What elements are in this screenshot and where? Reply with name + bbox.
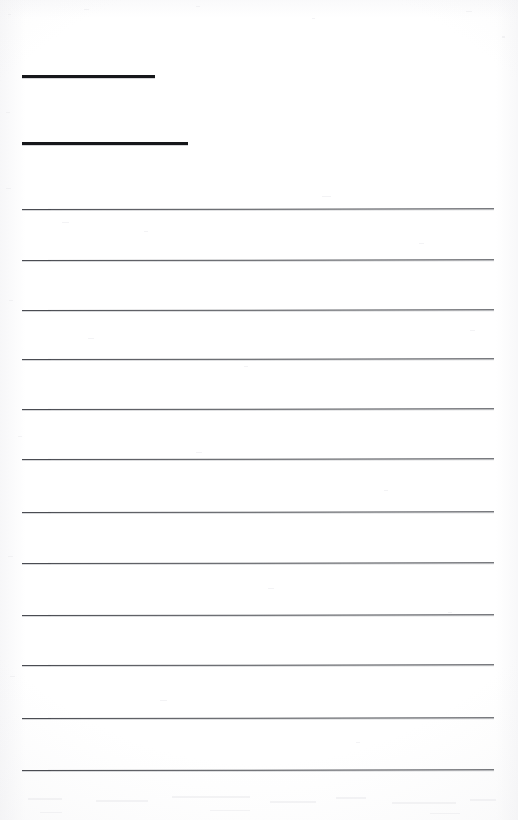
ruled-line	[22, 259, 494, 261]
ruled-line	[22, 358, 494, 360]
header-rule-primary	[22, 75, 155, 78]
scanned-page	[0, 0, 518, 820]
ruled-line	[22, 458, 494, 460]
ruled-line	[22, 408, 494, 410]
ruled-line	[22, 511, 494, 513]
ruled-line	[22, 208, 494, 210]
ruled-line	[22, 717, 494, 719]
ruled-line	[22, 664, 494, 666]
scan-noise-overlay	[0, 0, 518, 820]
ruled-line	[22, 562, 494, 564]
ruled-line	[22, 769, 494, 771]
header-rule-secondary	[22, 142, 188, 145]
ruled-line	[22, 309, 494, 311]
paper-texture	[0, 0, 518, 820]
ruled-line	[22, 614, 494, 616]
